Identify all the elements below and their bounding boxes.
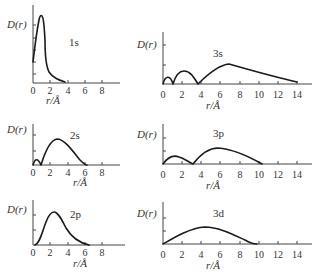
svg-text:4: 4 — [199, 89, 204, 100]
svg-text:14: 14 — [292, 169, 302, 180]
curve-1s — [33, 15, 65, 82]
svg-text:4: 4 — [199, 169, 204, 180]
svg-text:0: 0 — [31, 167, 36, 178]
x-axis-label: r/Å — [46, 94, 60, 106]
panel-3d: D(r) 3d 0 2 4 6 8 10 12 14 r/Å — [136, 202, 312, 271]
x-axis-label: r/Å — [73, 176, 87, 188]
y-axis-label: D(r) — [6, 18, 27, 31]
svg-text:0: 0 — [161, 89, 166, 100]
svg-text:8: 8 — [100, 85, 105, 96]
svg-text:6: 6 — [83, 85, 88, 96]
svg-text:0: 0 — [161, 249, 166, 260]
svg-text:8: 8 — [238, 249, 243, 260]
svg-text:4: 4 — [199, 249, 204, 260]
panel-title: 3d — [213, 207, 225, 219]
panel-title: 3s — [213, 47, 223, 59]
svg-text:10: 10 — [254, 169, 264, 180]
y-axis-label: D(r) — [6, 203, 27, 216]
y-axis-label: D(r) — [6, 123, 27, 136]
svg-text:12: 12 — [273, 249, 283, 260]
svg-text:8: 8 — [238, 169, 243, 180]
svg-text:8: 8 — [238, 89, 243, 100]
svg-text:2: 2 — [180, 249, 185, 260]
svg-text:12: 12 — [273, 169, 283, 180]
y-axis-label: D(r) — [136, 38, 157, 51]
panel-title: 1s — [69, 36, 79, 48]
y-axis-label: D(r) — [136, 128, 157, 141]
svg-text:10: 10 — [254, 249, 264, 260]
curve-3d — [163, 227, 257, 244]
svg-text:4: 4 — [66, 167, 71, 178]
svg-text:2: 2 — [180, 169, 185, 180]
svg-text:4: 4 — [66, 247, 71, 258]
svg-text:8: 8 — [100, 167, 105, 178]
svg-text:2: 2 — [180, 89, 185, 100]
svg-text:8: 8 — [100, 247, 105, 258]
panel-2p: D(r) 2p 0 2 4 6 8 r/Å — [6, 200, 125, 269]
svg-text:12: 12 — [273, 89, 283, 100]
x-axis-label: r/Å — [206, 259, 220, 271]
panel-3p: D(r) 3p 0 2 4 6 8 10 12 14 r/Å — [136, 124, 312, 191]
radial-distribution-figure: D(r) 1s 0 2 4 6 8 r/Å D(r) 3s 0 2 4 6 8 … — [0, 0, 318, 280]
panel-title: 3p — [213, 127, 225, 139]
x-axis-label: r/Å — [206, 99, 220, 111]
svg-text:2: 2 — [48, 247, 53, 258]
panel-title: 2p — [70, 208, 82, 220]
svg-text:0: 0 — [161, 169, 166, 180]
x-axis-label: r/Å — [73, 257, 87, 269]
panel-1s: D(r) 1s 0 2 4 6 8 r/Å — [6, 5, 120, 106]
svg-text:0: 0 — [31, 85, 36, 96]
svg-text:4: 4 — [66, 85, 71, 96]
svg-text:2: 2 — [48, 167, 53, 178]
panel-title: 2s — [70, 129, 80, 141]
svg-text:14: 14 — [292, 89, 302, 100]
curve-2s — [33, 139, 87, 165]
panel-3s: D(r) 3s 0 2 4 6 8 10 12 14 r/Å — [136, 32, 312, 111]
svg-text:10: 10 — [254, 89, 264, 100]
y-axis-label: D(r) — [136, 207, 157, 220]
svg-text:0: 0 — [31, 247, 36, 258]
curve-3s — [163, 64, 297, 84]
panel-2s: D(r) 2s 0 2 4 6 8 r/Å — [6, 123, 120, 188]
curve-3p — [163, 148, 262, 164]
svg-text:14: 14 — [292, 249, 302, 260]
x-axis-label: r/Å — [206, 179, 220, 191]
